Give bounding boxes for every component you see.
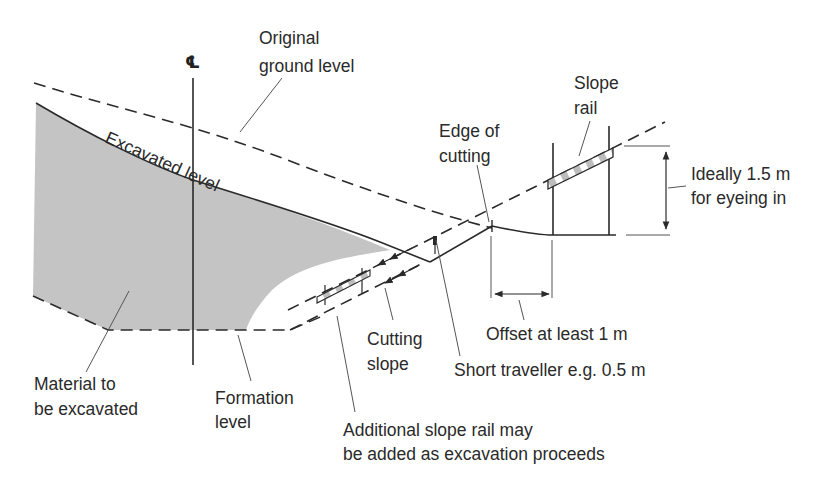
leader-slope-rail <box>579 121 590 156</box>
height-leader <box>668 186 686 188</box>
natural-ground-line <box>492 226 616 235</box>
leader-cutting-slope <box>385 288 393 320</box>
slope-rail-board <box>548 148 613 189</box>
label-cutting-slope: Cutting slope <box>367 329 427 374</box>
label-material-to-be-excavated: Material to be excavated <box>34 374 138 419</box>
leader-offset <box>519 300 524 320</box>
label-original-ground-level: Original ground level <box>259 28 354 76</box>
slope-arrow <box>398 266 418 276</box>
label-edge-of-cutting: Edge of cutting <box>439 121 504 166</box>
material-to-be-excavated-area <box>33 103 390 330</box>
leader-short-traveller <box>436 240 460 356</box>
label-short-traveller: Short traveller e.g. 0.5 m <box>454 360 646 380</box>
label-slope-rail: Slope rail <box>574 73 624 118</box>
leader-original-ground <box>240 78 282 132</box>
centreline-symbol: ℄ <box>185 52 200 72</box>
leader-formation-level <box>238 335 251 381</box>
label-additional-slope-rail: Additional slope rail may be added as ex… <box>343 420 605 464</box>
label-offset: Offset at least 1 m <box>486 324 628 344</box>
label-formation-level: Formation level <box>215 388 299 432</box>
excavation-cross-section-diagram: ℄ Original ground level Excavated <box>0 0 827 486</box>
leader-additional-rail <box>337 316 355 412</box>
label-ideal-height: Ideally 1.5 m for eyeing in <box>691 164 795 208</box>
